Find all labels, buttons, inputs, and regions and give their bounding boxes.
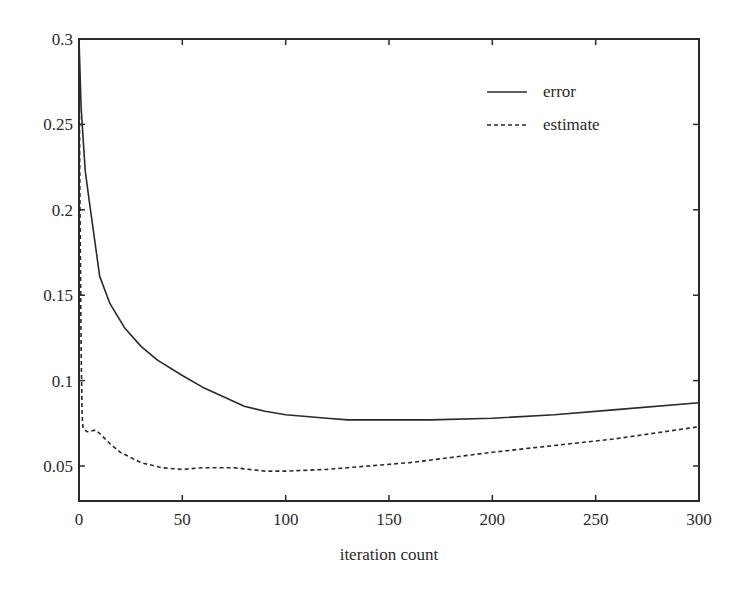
plot-area xyxy=(79,39,699,471)
y-tick-label: 0.1 xyxy=(52,372,73,391)
series-line-estimate xyxy=(79,39,699,471)
legend-label-error: error xyxy=(543,82,576,101)
y-tick-label: 0.3 xyxy=(52,30,73,49)
series-line-error xyxy=(79,39,699,420)
x-axis-ticks: 050100150200250300 xyxy=(75,39,712,529)
y-tick-label: 0.15 xyxy=(43,286,73,305)
x-tick-label: 200 xyxy=(480,510,506,529)
x-tick-label: 300 xyxy=(686,510,712,529)
y-tick-label: 0.2 xyxy=(52,201,73,220)
x-tick-label: 150 xyxy=(376,510,402,529)
x-tick-label: 250 xyxy=(583,510,609,529)
y-tick-label: 0.05 xyxy=(43,457,73,476)
x-axis-label: iteration count xyxy=(340,545,439,564)
x-tick-label: 0 xyxy=(75,510,84,529)
legend-label-estimate: estimate xyxy=(543,115,600,134)
x-tick-label: 50 xyxy=(174,510,191,529)
y-tick-label: 0.25 xyxy=(43,115,73,134)
line-chart: 050100150200250300 0.050.10.150.20.250.3… xyxy=(0,0,751,590)
axes-frame xyxy=(79,39,699,501)
x-tick-label: 100 xyxy=(273,510,299,529)
legend: error estimate xyxy=(487,82,600,134)
y-axis-ticks: 0.050.10.150.20.250.3 xyxy=(43,30,699,476)
